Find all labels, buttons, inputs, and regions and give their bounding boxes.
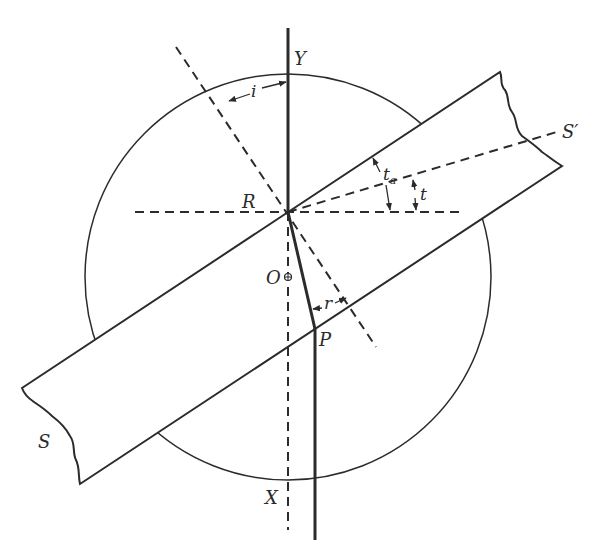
label-angle-ta-sub: a xyxy=(390,174,397,187)
label-angle-i: i xyxy=(251,81,256,101)
label-o: O xyxy=(266,267,281,288)
glass-slab xyxy=(22,72,562,484)
label-y: Y xyxy=(294,48,308,69)
label-angle-r: r xyxy=(324,293,333,313)
label-x: X xyxy=(263,487,279,508)
label-s: S xyxy=(38,431,50,452)
angle-i-arrow-left xyxy=(229,94,250,101)
refraction-diagram: Y X R O P S S′ i r t ta xyxy=(0,0,594,558)
label-r: R xyxy=(241,191,256,212)
label-angle-t: t xyxy=(420,184,427,204)
angle-i-arrow-right xyxy=(262,82,286,88)
label-p: P xyxy=(318,329,332,350)
label-s-prime: S′ xyxy=(562,121,578,142)
